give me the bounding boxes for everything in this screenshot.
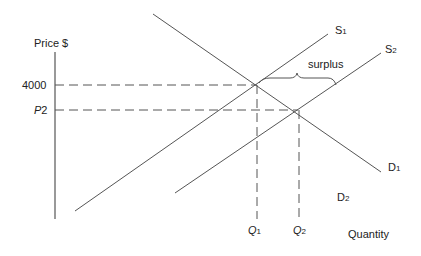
x-axis-label: Quantity — [348, 228, 389, 240]
quantity-tick-q1: Q1 — [248, 224, 262, 236]
quantity-tick-q2: Q2 — [293, 224, 307, 236]
s1-curve — [75, 34, 328, 211]
price-tick-4000: 4000 — [22, 79, 46, 91]
d1-curve — [153, 14, 381, 172]
s2-curve — [175, 53, 381, 193]
surplus-label: surplus — [308, 58, 344, 70]
supply-demand-diagram: Price $ Quantity 4000 P2 Q1 Q2 S1 S2 D1 … — [0, 0, 421, 256]
s2-label: S2 — [385, 43, 397, 55]
price-tick-p2: P2 — [34, 104, 47, 116]
y-axis-label: Price $ — [34, 37, 68, 49]
s1-label: S1 — [335, 24, 347, 36]
d1-label: D1 — [388, 161, 401, 173]
d2-label: D2 — [337, 191, 350, 203]
